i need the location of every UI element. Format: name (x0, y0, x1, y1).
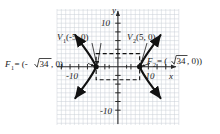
x-tick-positive-ten: 10 (146, 71, 156, 81)
y-tick-negative-ten: -10 (100, 106, 112, 116)
x-axis-label: x (168, 71, 173, 81)
vertex-2-coords: (5, 0) (136, 32, 156, 42)
y-axis-label: y (111, 5, 116, 15)
x-tick-negative-ten: -10 (66, 71, 78, 81)
vertex-2-label: V 2 (5, 0) (127, 32, 156, 44)
focus-2-equals: = ( (157, 56, 167, 66)
focus-1-symbol: F (4, 59, 11, 69)
focus-2-symbol: F (146, 56, 153, 66)
focus-2-radicand: 34 (177, 56, 187, 66)
y-tick-positive-ten: 10 (101, 18, 111, 28)
vertex-1-coords: (-5, 0) (66, 32, 89, 42)
vertex-point-1 (94, 64, 99, 69)
focus-1-tail: , 0) (51, 59, 63, 69)
focus-2-tail: , 0)) (187, 56, 202, 66)
hyperbola-figure: -10 10 10 -10 x y V 1 (-5, 0) V 2 (5, 0)… (0, 0, 220, 134)
focus-2-subscript: 2 (153, 62, 156, 68)
vertex-1-label: V 1 (-5, 0) (57, 32, 89, 44)
focus-1-equals: = (- (15, 59, 28, 69)
hyperbola-svg: -10 10 10 -10 x y V 1 (-5, 0) V 2 (5, 0)… (0, 0, 220, 134)
vertex-point-2 (137, 64, 142, 69)
focus-1-radicand: 34 (40, 59, 50, 69)
